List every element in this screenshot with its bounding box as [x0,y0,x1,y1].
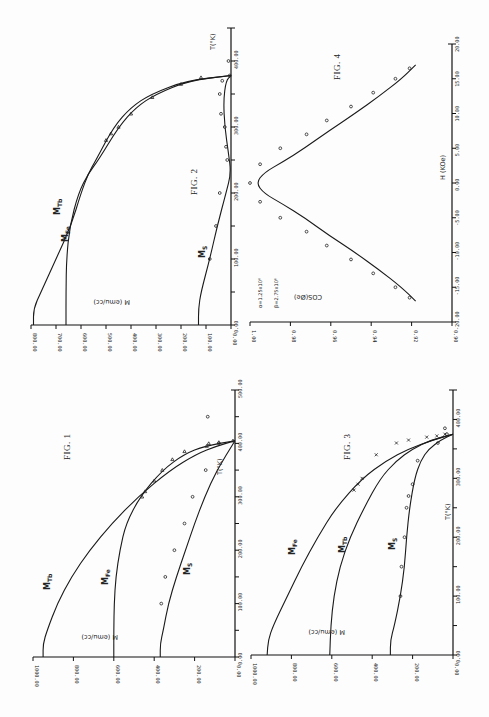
value-tick-label: 0.90 [453,330,459,343]
value-tick-label: 100.00 [207,333,213,352]
data-point-circle [325,119,328,122]
m-tb-curve [34,76,232,325]
value-tick-label: 400.00 [373,663,379,682]
figures-canvas: 0.00200.00400.00600.00800.001000.000.001… [0,0,489,717]
fig2-chart: 0.00100.00200.00300.00400.00500.00600.00… [31,28,239,352]
data-point-circle [225,145,228,148]
value-tick-label: 1.00 [251,330,257,343]
fit-curve [258,65,416,301]
x-axis-label: H (KOe) [439,155,447,180]
value-tick-label: 200.00 [414,663,420,682]
x-tick-label: 200.00 [233,182,239,201]
y-axis-label: M (emu/cc) [81,633,118,641]
x-tick-label: 300.00 [233,116,239,135]
x-tick-label: 0.00 [454,179,460,192]
data-point-cross [407,439,410,442]
data-point-circle [259,163,262,166]
curve-label: MTb [338,536,348,553]
data-point-circle [416,459,419,462]
x-tick-label: 100.00 [237,593,243,612]
data-point-circle [372,91,375,94]
x-tick-label: -20.00 [454,311,460,330]
data-point-circle [407,495,410,498]
data-point-circle [220,112,223,115]
figure-title: FIG. 1 [62,433,72,460]
curve-label: MS [183,563,193,575]
data-point-triangle [140,495,143,498]
x-tick-label: 100.00 [233,248,239,267]
data-point-circle [394,286,397,289]
value-tick-label: 600.00 [82,333,88,352]
data-point-circle [408,296,411,299]
x-tick-label: -15.00 [454,277,460,296]
x-tick-label: 200.00 [455,526,461,545]
value-tick-label: 200.00 [196,665,202,684]
data-point-circle [259,200,262,203]
curve-label: MTb [53,198,63,215]
data-point-circle [400,565,403,568]
x-tick-label: 10.00 [454,106,460,122]
x-tick-label: 0.00 [237,653,243,666]
value-tick-label: 0.98 [291,330,297,343]
data-point-circle [183,522,186,525]
fig3-chart: 0.00200.00400.00600.00800.001000.000.001… [251,390,461,685]
x-tick-label: -10.00 [454,242,460,261]
figure-title: FIG. 4 [332,53,342,80]
data-point-circle [325,244,328,247]
value-tick-label: 800.00 [74,665,80,684]
data-point-cross [353,489,356,492]
data-point-circle [164,576,167,579]
data-point-circle [305,133,308,136]
x-tick-label: -5.00 [454,210,460,226]
data-point-circle [226,159,229,162]
x-tick-label: 100.00 [455,585,461,604]
m-tb-curve [43,441,235,657]
data-point-circle [221,79,224,82]
x-tick-label: 0.00 [233,321,239,334]
curve-label: MTb [43,573,53,590]
x-tick-label: 400.00 [233,50,239,69]
data-point-circle [350,258,353,261]
curve-label: MFe [61,226,71,242]
x-tick-label: 15.00 [454,71,460,87]
data-point-circle [394,77,397,80]
y-axis-label: COS(Øe) [294,293,322,301]
value-tick-label: 1000.00 [252,663,258,685]
annotation-text: α=1.25x10⁶ [257,278,263,308]
value-tick-label: 800.00 [32,333,38,352]
data-point-triangle [199,76,202,79]
data-point-circle [279,216,282,219]
value-tick-label: 400.00 [155,665,161,684]
data-point-cross [443,433,446,436]
data-point-circle [444,427,447,430]
value-tick-label: 700.00 [57,333,63,352]
data-point-circle [218,93,221,96]
value-tick-label: 600.00 [333,663,339,682]
data-point-circle [372,272,375,275]
data-point-circle [191,495,194,498]
curve-label: MS [198,246,208,258]
data-point-circle [408,67,411,70]
value-tick-label: 300.00 [157,333,163,352]
x-axis-label: T(°K) [216,458,224,476]
data-point-cross [375,453,378,456]
curve-label: MS [388,538,398,550]
data-point-triangle [207,442,210,445]
value-tick-label: 500.00 [107,333,113,352]
data-point-circle [160,602,163,605]
data-point-circle [249,182,252,185]
curve-label: MFe [288,539,298,555]
data-point-circle [173,549,176,552]
y-axis-label: M (emu/cc) [308,628,345,636]
x-tick-label: 500.00 [237,379,243,398]
figure-title: FIG. 3 [342,433,352,460]
annotation-text: β=2.75x10⁶ [273,278,280,308]
value-tick-label: 800.00 [292,663,298,682]
data-point-cross [425,436,428,439]
data-point-circle [227,60,230,63]
x-tick-label: 300.00 [455,468,461,487]
x-tick-label: 400.00 [455,409,461,428]
value-tick-label: 0.00 [232,333,238,346]
m-s-curve [390,434,453,655]
data-point-circle [218,192,221,195]
